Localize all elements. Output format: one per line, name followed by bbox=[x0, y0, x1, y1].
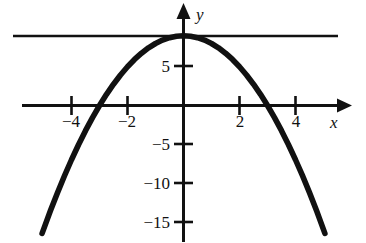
graph-figure: −4 −2 2 4 5 −5 −10 −15 x y bbox=[0, 0, 366, 243]
x-axis-arrowhead bbox=[337, 99, 352, 113]
x-tick-label-minus2: −2 bbox=[118, 113, 136, 130]
y-tick-label-minus5: −5 bbox=[152, 136, 170, 153]
x-tick-label-2: 2 bbox=[236, 113, 245, 130]
y-tick-label-minus10: −10 bbox=[143, 175, 170, 192]
y-axis-label: y bbox=[196, 6, 204, 23]
y-axis-arrowhead bbox=[177, 3, 191, 19]
coordinate-plane-svg bbox=[0, 0, 366, 243]
y-tick-label-minus15: −15 bbox=[143, 214, 170, 231]
y-tick-label-5: 5 bbox=[162, 58, 171, 75]
x-tick-label-4: 4 bbox=[292, 113, 301, 130]
x-tick-label-minus4: −4 bbox=[62, 113, 80, 130]
x-axis-label: x bbox=[330, 114, 338, 131]
